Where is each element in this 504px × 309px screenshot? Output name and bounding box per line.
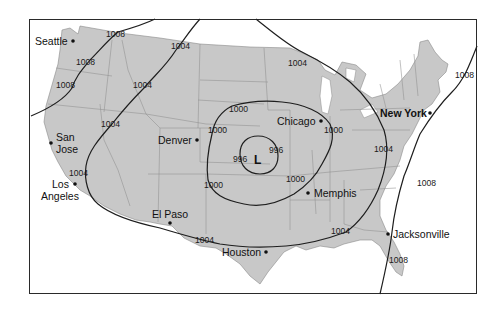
isobar-label: 1004 bbox=[133, 80, 152, 90]
city-label-chicago: Chicago bbox=[277, 115, 316, 127]
isobar-label: 1008 bbox=[417, 178, 436, 188]
isobar-label: 1000 bbox=[229, 104, 248, 114]
city-dot-el-paso bbox=[168, 221, 172, 225]
isobar-label: 1000 bbox=[286, 174, 305, 184]
city-dot-los-angeles bbox=[73, 182, 77, 186]
city-label-new-york: New York bbox=[380, 107, 427, 119]
isobar-label: 1000 bbox=[204, 180, 223, 190]
isobar-label: 1004 bbox=[331, 226, 350, 236]
isobar-label: 996 bbox=[269, 145, 284, 155]
city-label-jacksonville: Jacksonville bbox=[393, 228, 450, 240]
city-dot-san-jose bbox=[49, 141, 53, 145]
city-dot-seattle bbox=[71, 39, 75, 43]
isobar-label: 996 bbox=[233, 154, 248, 164]
city-dot-houston bbox=[264, 250, 268, 254]
city-label-los-angeles-line2: Angeles bbox=[41, 190, 79, 202]
low-pressure-center-label: L bbox=[254, 153, 261, 167]
city-dot-new-york bbox=[428, 111, 432, 115]
isobar-label: 1004 bbox=[69, 168, 88, 178]
isobar-label: 1004 bbox=[101, 119, 120, 129]
city-label-los-angeles-line1: Los bbox=[52, 178, 69, 190]
city-dot-jacksonville bbox=[386, 232, 390, 236]
city-label-denver: Denver bbox=[158, 134, 192, 146]
city-label-el-paso: El Paso bbox=[152, 208, 188, 220]
city-dot-chicago bbox=[319, 119, 323, 123]
isobar-label: 1004 bbox=[195, 235, 214, 245]
city-dot-denver bbox=[195, 138, 199, 142]
city-dot-memphis bbox=[306, 191, 310, 195]
isobar-label: 1008 bbox=[389, 255, 408, 265]
isobar-label: 1000 bbox=[208, 125, 227, 135]
isobar-label: 1004 bbox=[374, 144, 393, 154]
city-label-san-jose-line1: San bbox=[56, 131, 75, 143]
city-label-san-jose-line2: Jose bbox=[56, 143, 78, 155]
isobar-label: 1000 bbox=[324, 125, 343, 135]
isobar-label: 1008 bbox=[76, 57, 95, 67]
isobar-label: 1004 bbox=[288, 58, 307, 68]
city-label-houston: Houston bbox=[222, 246, 261, 258]
city-label-memphis: Memphis bbox=[314, 187, 357, 199]
weather-map: L 1008 1008 1008 1004 1004 1004 1004 100… bbox=[0, 0, 504, 309]
isobar-label: 1008 bbox=[455, 70, 474, 80]
isobar-label: 1004 bbox=[171, 41, 190, 51]
city-label-seattle: Seattle bbox=[35, 35, 68, 47]
isobar-label: 1008 bbox=[56, 80, 75, 90]
isobar-label: 1008 bbox=[106, 29, 125, 39]
